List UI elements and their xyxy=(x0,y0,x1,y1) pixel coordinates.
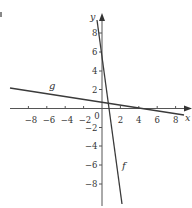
cropped-label-fragment xyxy=(0,12,2,17)
y-tick-label: 4 xyxy=(92,66,97,76)
x-tick-label: −4 xyxy=(61,115,74,125)
graph-canvas: −8 −6 −4 −2 2 4 6 8 0 8 6 4 2 −2 −4 −6 −… xyxy=(0,0,192,208)
y-tick-label: −4 xyxy=(85,141,98,151)
y-tick-label: −2 xyxy=(85,123,98,133)
label-f: f xyxy=(121,160,128,171)
x-tick-label: 6 xyxy=(154,115,159,125)
origin-label: 0 xyxy=(94,111,99,121)
x-axis-arrow-icon xyxy=(184,106,192,112)
x-tick-label: 2 xyxy=(118,115,123,125)
y-tick-label: 8 xyxy=(92,28,97,38)
y-tick-label: −8 xyxy=(85,179,98,189)
x-tick-label: 4 xyxy=(136,115,141,125)
y-tick-label: −6 xyxy=(85,160,98,170)
y-axis-label: y xyxy=(89,11,96,22)
x-tick-label: −6 xyxy=(43,115,56,125)
line-f xyxy=(97,20,122,204)
x-tick-label: −8 xyxy=(25,115,38,125)
x-axis xyxy=(10,106,192,112)
y-tick-label: 2 xyxy=(92,85,97,95)
y-axis-arrow-icon xyxy=(99,13,105,21)
label-g: g xyxy=(49,80,55,91)
x-tick-label: 8 xyxy=(173,115,178,125)
y-tick-label: 6 xyxy=(92,47,97,57)
x-axis-label: x xyxy=(185,112,191,123)
